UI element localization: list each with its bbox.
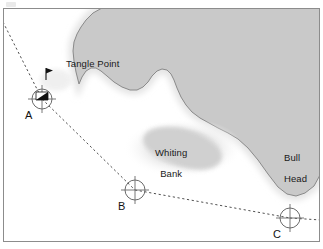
label-bull-head-line2: Head	[284, 173, 307, 184]
chart-canvas	[0, 0, 323, 249]
station-label-b: B	[118, 201, 125, 212]
station-label-a: A	[25, 110, 32, 121]
station-label-c: C	[273, 229, 281, 240]
label-bull-head-line1: Bull	[284, 152, 300, 163]
label-tangle-point: Tangle Point	[66, 59, 120, 70]
nautical-chart: Tangle Point Whiting Bank Bull Head A B …	[0, 0, 323, 249]
inlet-shallows	[40, 69, 72, 91]
label-whiting-bank: Whiting Bank	[144, 137, 187, 190]
label-whiting-bank-line1: Whiting	[155, 147, 187, 158]
label-bull-head: Bull Head	[273, 142, 307, 195]
label-whiting-bank-line2: Bank	[160, 168, 182, 179]
